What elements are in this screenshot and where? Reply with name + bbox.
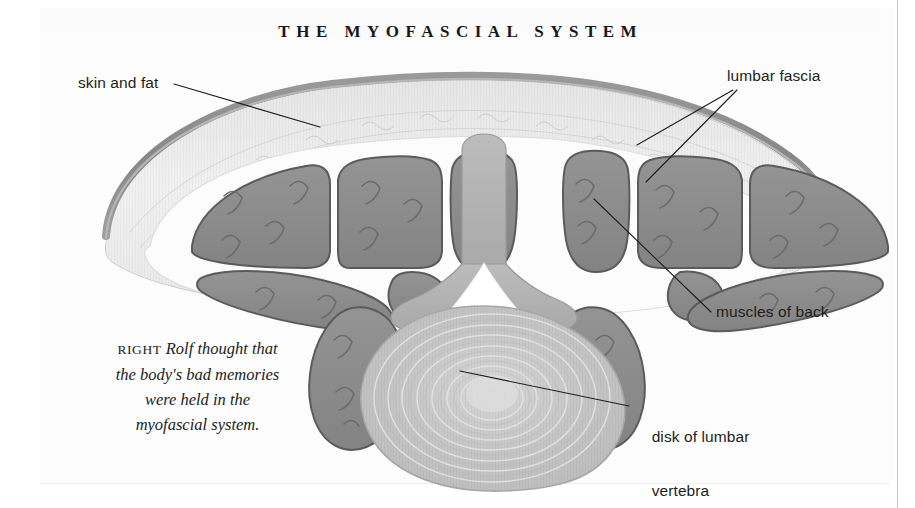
- label-disk-line-1: disk of lumbar: [652, 428, 750, 445]
- caption-line-2: the body's bad memories: [116, 365, 279, 384]
- caption-line-3: were held in the: [145, 390, 250, 409]
- label-lumbar-fascia: lumbar fascia: [727, 67, 820, 85]
- caption-line-4: myofascial system.: [136, 415, 260, 434]
- label-muscles-of-back: muscles of back: [716, 303, 829, 321]
- label-skin-and-fat: skin and fat: [78, 74, 158, 92]
- label-disk-of-lumbar-vertebra: disk of lumbar vertebra: [634, 396, 750, 508]
- page-title: THE MYOFASCIAL SYSTEM: [0, 22, 915, 42]
- label-disk-line-2: vertebra: [652, 482, 710, 499]
- figure-caption: RIGHT Rolf thought that the body's bad m…: [75, 336, 320, 437]
- illustration-page: THE MYOFASCIAL SYSTEM skin and fat lumba…: [0, 0, 915, 508]
- caption-line-1: Rolf thought that: [166, 339, 278, 358]
- caption-kicker: RIGHT: [117, 342, 161, 357]
